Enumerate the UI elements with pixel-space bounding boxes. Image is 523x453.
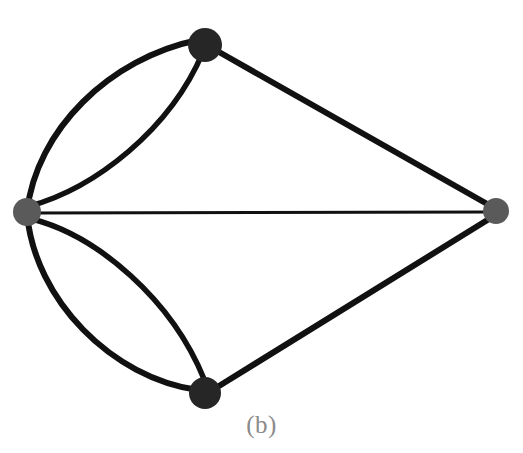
graph-edge-left-top bbox=[27, 40, 198, 212]
graph-node-left[interactable] bbox=[13, 198, 41, 226]
graph-edge-bottom-right bbox=[219, 219, 489, 386]
graph-node-right[interactable] bbox=[483, 198, 509, 224]
node-layer bbox=[13, 28, 509, 409]
graph-node-top[interactable] bbox=[188, 28, 222, 62]
graph-edge-left-right bbox=[33, 212, 488, 213]
figure-container: (b) bbox=[0, 0, 523, 453]
multigraph-diagram bbox=[0, 0, 523, 453]
edge-layer bbox=[27, 40, 489, 390]
graph-node-bottom[interactable] bbox=[189, 377, 221, 409]
figure-caption: (b) bbox=[0, 408, 523, 442]
graph-edge-left-bottom bbox=[27, 214, 198, 390]
graph-edge-top-right bbox=[219, 52, 489, 205]
